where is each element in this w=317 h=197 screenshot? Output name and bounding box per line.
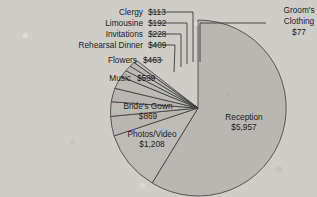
label-photos-video-name: Photos/Video	[127, 129, 177, 139]
label-rehearsal-dinner-name: Rehearsal Dinner	[78, 40, 143, 50]
label-limousine-name: Limousine	[105, 18, 143, 28]
label-flowers-name: Flowers	[108, 55, 137, 65]
label-reception-name: Reception	[225, 112, 263, 122]
pie-chart-svg: Clergy $113 Limousine $192 Invitations $…	[0, 0, 317, 197]
label-music-name: Music	[109, 73, 131, 83]
label-photos-video-value: $1,208	[139, 139, 165, 149]
label-invitations-name: Invitations	[106, 29, 143, 39]
label-grooms-clothing-value: $77	[292, 27, 306, 37]
label-reception-value: $5,957	[231, 122, 257, 132]
label-grooms-clothing-name2: Clothing	[284, 16, 315, 26]
label-clergy-value: $113	[148, 7, 166, 17]
label-grooms-clothing-name: Groom's	[283, 5, 314, 15]
pie-chart-figure: Clergy $113 Limousine $192 Invitations $…	[0, 0, 317, 197]
label-brides-gown-name: Bride's Gown	[123, 101, 172, 111]
label-invitations-value: $228	[148, 29, 167, 39]
label-rehearsal-dinner-value: $409	[148, 40, 167, 50]
label-clergy-name: Clergy	[119, 7, 144, 17]
label-flowers-value: $463	[143, 55, 162, 65]
label-brides-gown-value: $869	[139, 111, 158, 121]
label-limousine-value: $192	[148, 18, 167, 28]
label-music-value: $539	[137, 73, 156, 83]
